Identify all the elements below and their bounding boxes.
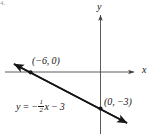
equation-lhs: y (16, 101, 20, 112)
y-intercept-label: (0, −3) (104, 97, 132, 107)
equation-operator: − (51, 101, 58, 112)
fraction-numerator: 1 (38, 99, 44, 106)
point-y-intercept (98, 106, 102, 110)
fraction-denominator: 2 (38, 106, 44, 114)
x-intercept-label: (−6, 0) (32, 56, 60, 66)
x-axis-label: x (142, 65, 146, 75)
equation-constant: 3 (60, 101, 65, 112)
graph-figure: 4. y x (−6, 0) (0, −3) y (0, 0, 152, 140)
equation-label: y = − 1 2 x − 3 (16, 99, 65, 115)
equation-fraction: 1 2 (38, 99, 44, 115)
equation-sign: − (31, 101, 38, 112)
y-axis-label: y (97, 2, 101, 12)
equation-variable: x (44, 101, 48, 112)
coordinate-plane-graphic (0, 0, 152, 140)
equation-equals: = (22, 101, 29, 112)
point-x-intercept (28, 70, 32, 74)
